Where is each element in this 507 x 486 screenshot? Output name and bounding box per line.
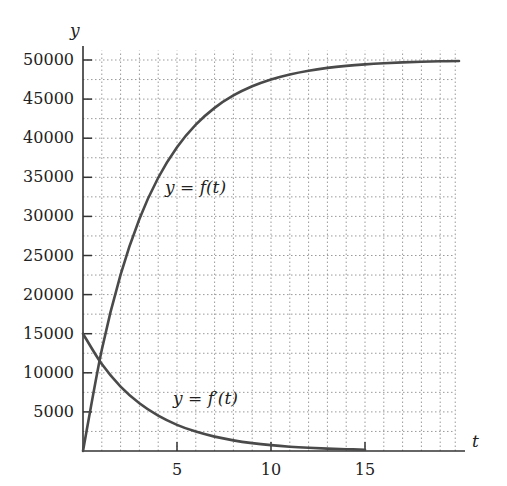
grid: [83, 51, 455, 451]
y-tick-label: 20000: [23, 285, 74, 304]
x-axis-label: t: [472, 431, 479, 451]
f-curve-label: y = f(t): [164, 177, 226, 197]
y-tick-label: 5000: [33, 402, 74, 421]
y-tick-label: 45000: [23, 89, 74, 108]
chart: 5000100001500020000250003000035000400004…: [0, 0, 507, 486]
ticks: 5000100001500020000250003000035000400004…: [23, 50, 375, 479]
y-tick-label: 25000: [23, 246, 74, 265]
y-tick-label: 40000: [23, 128, 74, 147]
y-axis-label: y: [69, 20, 80, 40]
axes: [83, 46, 465, 451]
y-tick-label: 35000: [23, 167, 74, 186]
y-tick-label: 50000: [23, 50, 74, 69]
x-tick-label: 5: [172, 460, 182, 479]
y-tick-label: 10000: [23, 363, 74, 382]
x-tick-label: 10: [261, 460, 281, 479]
x-tick-label: 15: [355, 460, 375, 479]
y-tick-label: 15000: [23, 324, 74, 343]
y-tick-label: 30000: [23, 206, 74, 225]
fprime-curve-label: y = f′(t): [172, 388, 238, 408]
